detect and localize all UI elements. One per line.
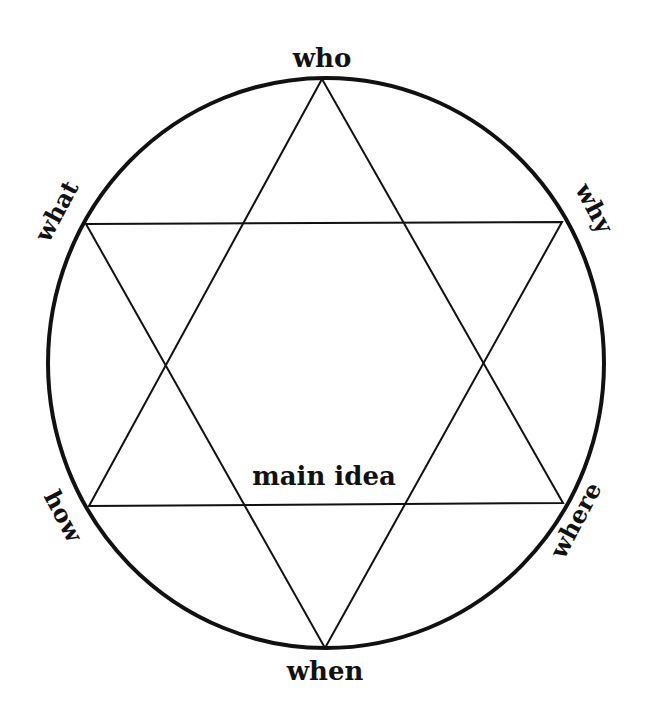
label-when: when bbox=[286, 656, 364, 686]
downward-triangle bbox=[86, 222, 562, 648]
label-why: why bbox=[569, 177, 620, 238]
label-how: how bbox=[38, 485, 90, 548]
six-questions-star-diagram: who when what why how where main idea bbox=[0, 0, 655, 726]
label-who: who bbox=[292, 43, 352, 73]
label-where: where bbox=[543, 477, 607, 563]
outer-circle bbox=[48, 78, 604, 648]
center-label-main-idea: main idea bbox=[252, 461, 396, 491]
upward-triangle bbox=[89, 79, 563, 506]
